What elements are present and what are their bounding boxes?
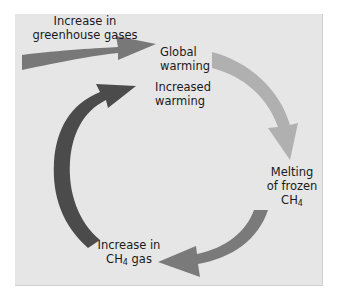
increase-ch4-formula: CH4 gas [94,252,164,266]
melting-line-1: Melting [256,165,328,179]
warming-to-melting-arrow [212,52,298,160]
melting-to-ch4-arrow [158,210,268,277]
formula-base: CH [106,252,123,266]
ch4-to-increased-warming-arrow [54,84,136,248]
input-line-1: Increase in [20,14,150,28]
node-input-label: Increase in greenhouse gases [20,14,150,42]
increased-warming-line-2: warming [155,94,211,108]
formula-suffix: gas [128,252,152,266]
node-increase-ch4-label: Increase in CH4 gas [94,238,164,266]
global-warming-line-2: warming [160,59,210,73]
increase-ch4-line-1: Increase in [94,238,164,252]
increased-warming-line-1: Increased [155,80,211,94]
formula-base: CH [281,193,298,207]
formula-subscript: 4 [298,199,303,208]
melting-line-2: of frozen [256,179,328,193]
node-increased-warming-label: Increased warming [155,80,211,108]
melting-formula: CH4 [256,193,328,207]
node-global-warming-label: Global warming [160,45,210,73]
node-melting-label: Melting of frozen CH4 [256,165,328,207]
input-line-2: greenhouse gases [20,28,150,42]
global-warming-line-1: Global [160,45,210,59]
